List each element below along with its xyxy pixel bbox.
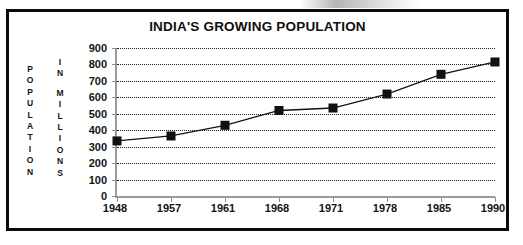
gridline — [117, 114, 495, 115]
gridline — [117, 163, 495, 164]
y-axis-tick-label: 200 — [75, 157, 107, 169]
in-millions-letter: N — [53, 156, 67, 167]
y-axis-tick-label: 600 — [75, 91, 107, 103]
x-axis-tick-labels: 19481957196119681971197819851990 — [115, 202, 493, 220]
gridline — [117, 64, 495, 65]
y-axis-caption-population: POPULATION — [23, 64, 37, 178]
y-axis-tick-label: 100 — [75, 174, 107, 186]
data-point-marker — [167, 131, 176, 140]
data-point-marker — [437, 70, 446, 79]
y-axis-tick-mark — [112, 180, 117, 181]
in-millions-letter: M — [53, 88, 67, 99]
x-axis-tick-label: 1948 — [103, 202, 127, 214]
gridline — [117, 147, 495, 148]
y-axis-tick-label: 800 — [75, 58, 107, 70]
in-millions-letter: N — [53, 68, 67, 79]
gridline — [117, 97, 495, 98]
population-letter: U — [23, 98, 37, 109]
x-axis-tick-label: 1971 — [319, 202, 343, 214]
in-millions-letter: L — [53, 122, 67, 133]
population-letter: O — [23, 155, 37, 166]
y-axis-tick-mark — [112, 114, 117, 115]
in-millions-letter: I — [53, 133, 67, 144]
x-axis-tick-label: 1978 — [373, 202, 397, 214]
y-axis-tick-mark — [112, 163, 117, 164]
y-axis-tick-labels: 0100200300400500600700800900 — [75, 48, 107, 196]
y-axis-tick-mark — [112, 147, 117, 148]
series-line-population — [117, 48, 495, 196]
y-axis-tick-mark — [112, 130, 117, 131]
gridline — [117, 81, 495, 82]
x-axis-tick-label: 1957 — [157, 202, 181, 214]
in-millions-letter: I — [53, 99, 67, 110]
y-axis-tick-label: 700 — [75, 75, 107, 87]
x-axis-tick-label: 1990 — [481, 202, 505, 214]
y-axis-tick-mark — [112, 64, 117, 65]
population-letter: T — [23, 132, 37, 143]
population-letter: A — [23, 121, 37, 132]
scan-artifact — [300, 0, 420, 8]
population-letter: P — [23, 64, 37, 75]
y-axis-tick-mark — [112, 48, 117, 49]
x-axis-tick-label: 1961 — [211, 202, 235, 214]
population-letter: P — [23, 87, 37, 98]
gridline — [117, 130, 495, 131]
population-letter: L — [23, 110, 37, 121]
y-axis-tick-label: 900 — [75, 42, 107, 54]
y-axis-tick-mark — [112, 97, 117, 98]
plot-wrapper: 0100200300400500600700800900 19481957196… — [75, 48, 500, 223]
in-millions-letter: S — [53, 168, 67, 179]
gridline — [117, 48, 495, 49]
chart-title: INDIA'S GROWING POPULATION — [9, 19, 506, 34]
y-axis-tick-label: 400 — [75, 124, 107, 136]
plot-area — [115, 48, 495, 198]
in-millions-gap — [53, 80, 67, 88]
x-axis-tick-label: 1968 — [265, 202, 289, 214]
y-axis-tick-label: 0 — [75, 190, 107, 202]
in-millions-letter: I — [53, 57, 67, 68]
y-axis-tick-label: 300 — [75, 141, 107, 153]
in-millions-letter: L — [53, 111, 67, 122]
y-axis-tick-label: 500 — [75, 108, 107, 120]
chart-frame: INDIA'S GROWING POPULATION POPULATION IN… — [6, 9, 509, 231]
x-axis-tick-label: 1985 — [427, 202, 451, 214]
data-point-marker — [221, 121, 230, 130]
y-axis-caption-in-millions: INMILLIONS — [53, 57, 67, 179]
gridline — [117, 180, 495, 181]
population-letter: O — [23, 75, 37, 86]
data-point-marker — [329, 104, 338, 113]
population-letter: I — [23, 144, 37, 155]
in-millions-letter: O — [53, 145, 67, 156]
population-letter: N — [23, 167, 37, 178]
data-point-marker — [113, 136, 122, 145]
y-axis-tick-mark — [112, 81, 117, 82]
